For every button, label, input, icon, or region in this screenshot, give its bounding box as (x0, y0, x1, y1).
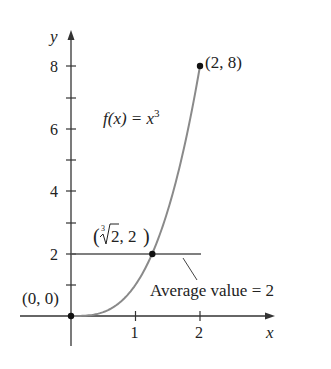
point-2-8 (197, 63, 203, 69)
x-tick-label-2: 2 (195, 324, 203, 341)
point-origin (68, 313, 74, 319)
x-axis-label: x (265, 323, 274, 342)
average-value-label: Average value = 2 (150, 281, 274, 300)
y-tick-label-6: 6 (50, 121, 58, 138)
point-label-origin: (0, 0) (22, 289, 59, 308)
function-label: f(x) = x3 (103, 107, 160, 128)
y-tick-label-4: 4 (50, 183, 58, 200)
svg-text:): ) (143, 225, 150, 248)
y-axis-label: y (48, 27, 58, 46)
svg-text:2, 2: 2, 2 (111, 227, 137, 246)
svg-text:3: 3 (101, 224, 105, 233)
curve-f-x-cubed (71, 66, 200, 316)
x-tick-label-1: 1 (131, 324, 139, 341)
y-axis-arrow-icon (68, 30, 75, 40)
point-cube-root-2 (149, 251, 155, 257)
average-leader-line (183, 258, 197, 280)
point-label-cube-root-2: ( 3 2, 2 ) (93, 224, 150, 248)
y-tick-label-8: 8 (50, 58, 58, 75)
chart-canvas: y x 8 6 4 2 1 2 (2, 8) f(x) = x3 ( 3 2, … (0, 0, 331, 369)
y-tick-label-2: 2 (50, 246, 58, 263)
point-label-2-8: (2, 8) (205, 53, 242, 72)
x-axis-arrow-icon (265, 313, 275, 320)
svg-text:(: ( (93, 225, 100, 248)
